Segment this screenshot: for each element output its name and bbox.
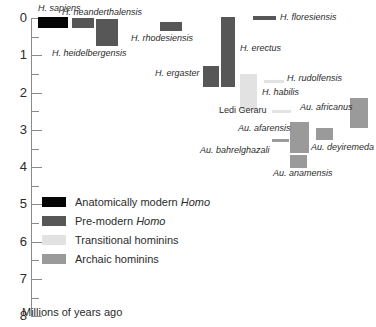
taxon-label-au-anamensis: Au. anamensis [273, 169, 333, 178]
y-tick-label-7: 7 [0, 272, 27, 285]
y-tick-minor-6_5 [31, 260, 39, 261]
range-bar-h-sapiens [38, 17, 68, 28]
taxon-label-h-ergaster: H. ergaster [155, 69, 200, 78]
legend-swatch-archaic-icon [42, 254, 66, 264]
legend-label-modern: Anatomically modern Homo [75, 196, 210, 208]
y-tick-label-0: 0 [0, 11, 27, 24]
hominin-timeline-chart: 0 1 2 3 4 5 6 7 8 Millions of years ago … [0, 0, 376, 327]
y-tick-label-5: 5 [0, 197, 27, 210]
range-bar-h-floresiensis [253, 16, 276, 20]
range-bar-h-neanderthalensis [72, 18, 94, 28]
legend-label-premodern-text: Pre-modern [75, 215, 136, 227]
legend-label-modern-text: Anatomically modern [75, 196, 181, 208]
taxon-label-h-floresiensis: H. floresiensis [280, 13, 337, 22]
y-tick-label-2: 2 [0, 86, 27, 99]
y-tick-major-6 [31, 242, 42, 243]
range-bar-h-rhodesiensis [160, 22, 182, 31]
taxon-label-h-habilis: H. habilis [262, 88, 299, 97]
legend-swatch-transitional-icon [42, 235, 66, 245]
taxon-label-h-rudolfensis: H. rudolfensis [287, 74, 342, 83]
legend-label-transitional: Transitional hominins [75, 234, 179, 246]
legend-item-archaic: Archaic hominins [42, 249, 210, 268]
range-bar-au-bahrelghazali [272, 139, 289, 142]
taxon-label-h-rhodesiensis: H. rhodesiensis [131, 34, 193, 43]
y-tick-label-6: 6 [0, 235, 27, 248]
y-tick-major-7 [31, 279, 42, 280]
range-bar-h-erectus [221, 17, 235, 87]
range-bar-h-rudolfensis [264, 80, 284, 83]
y-tick-major-5 [31, 204, 42, 205]
legend-label-premodern: Pre-modern Homo [75, 215, 165, 227]
legend-item-modern: Anatomically modern Homo [42, 192, 210, 211]
legend-label-premodern-genus: Homo [136, 215, 165, 227]
taxon-label-h-heidelbergensis: H. heidelbergensis [52, 49, 127, 58]
range-bar-h-ergaster [203, 66, 219, 87]
taxon-label-h-neanderthalensis: H. neanderthalensis [62, 8, 142, 17]
taxon-label-au-afarensis: Au. afarensis [238, 124, 291, 133]
y-tick-minor-5_5 [31, 223, 39, 224]
taxon-label-au-bahrelghazali: Au. bahrelghazali [200, 146, 270, 155]
legend: Anatomically modern Homo Pre-modern Homo… [42, 192, 210, 268]
y-tick-label-4: 4 [0, 160, 27, 173]
y-tick-label-3: 3 [0, 123, 27, 136]
legend-item-premodern: Pre-modern Homo [42, 211, 210, 230]
legend-swatch-premodern-icon [42, 216, 66, 226]
y-axis-caption: Millions of years ago [22, 306, 122, 318]
taxon-label-h-erectus: H. erectus [240, 44, 281, 53]
legend-label-archaic: Archaic hominins [75, 253, 159, 265]
y-tick-minor-1_5 [31, 74, 39, 75]
y-tick-minor-0_5 [31, 37, 39, 38]
legend-item-transitional: Transitional hominins [42, 230, 210, 249]
range-bar-ledi-geraru [272, 110, 291, 113]
range-bar-au-deyiremeda [316, 128, 333, 140]
legend-label-modern-genus: Homo [181, 196, 210, 208]
legend-swatch-modern-icon [42, 197, 66, 207]
y-tick-minor-2_5 [31, 111, 39, 112]
range-bar-h-heidelbergensis [96, 19, 118, 46]
range-bar-au-anamensis [290, 155, 307, 168]
y-tick-minor-4_5 [31, 186, 39, 187]
y-tick-minor-7_5 [31, 298, 39, 299]
y-tick-major-3 [31, 130, 42, 131]
taxon-label-au-deyiremeda: Au. deyiremeda [311, 143, 374, 152]
taxon-label-ledi-geraru: Ledi Geraru [219, 106, 267, 115]
y-tick-label-1: 1 [0, 48, 27, 61]
y-tick-minor-3_5 [31, 149, 39, 150]
y-tick-major-2 [31, 93, 42, 94]
y-tick-major-4 [31, 167, 42, 168]
y-tick-major-1 [31, 55, 42, 56]
taxon-label-au-africanus: Au. africanus [300, 103, 353, 112]
range-bar-au-afarensis [290, 122, 309, 153]
